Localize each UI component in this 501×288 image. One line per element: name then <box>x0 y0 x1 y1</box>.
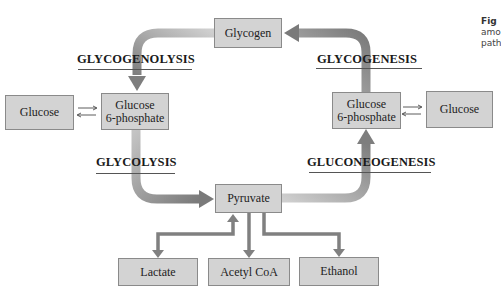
node-ethanol: Ethanol <box>299 257 379 286</box>
underline-glycogenolysis <box>78 69 192 70</box>
node-g6p-right-line2: 6-phosphate <box>337 111 396 124</box>
node-glucose-left-label: Glucose <box>20 106 59 119</box>
equilibrium-arrows-left <box>77 106 97 117</box>
node-lactate: Lactate <box>118 258 198 286</box>
node-glucose-right: Glucose <box>426 91 493 128</box>
node-g6p-right-line1: Glucose <box>347 98 386 111</box>
node-glucose-right-label: Glucose <box>440 103 479 116</box>
node-g6p-left: Glucose 6-phosphate <box>101 93 169 130</box>
equilibrium-arrows-right <box>402 105 422 116</box>
underline-glycolysis <box>96 173 175 174</box>
node-pyruvate-label: Pyruvate <box>227 192 270 205</box>
underline-glycogenesis <box>316 68 422 69</box>
label-glycogenesis: GLYCOGENESIS <box>317 52 417 67</box>
label-glycogenolysis: GLYCOGENOLYSIS <box>77 52 195 67</box>
caption-line2: amo <box>481 27 501 38</box>
figure-caption: Fig amo path <box>481 16 501 49</box>
node-ethanol-label: Ethanol <box>320 265 357 278</box>
caption-line3: path <box>481 38 501 49</box>
caption-line1: Fig <box>481 16 497 26</box>
pyruvate-branches <box>158 213 339 252</box>
node-lactate-label: Lactate <box>140 266 175 279</box>
node-glycogen-label: Glycogen <box>225 27 272 40</box>
node-g6p-left-line1: Glucose <box>115 99 154 112</box>
node-acetyl-coa: Acetyl CoA <box>208 258 290 286</box>
node-glucose-left: Glucose <box>5 95 74 130</box>
node-glycogen: Glycogen <box>214 18 282 48</box>
label-gluconeogenesis: GLUCONEOGENESIS <box>307 155 436 170</box>
node-acetyl-coa-label: Acetyl CoA <box>220 266 278 279</box>
underline-gluconeogenesis <box>309 172 431 173</box>
node-g6p-left-line2: 6-phosphate <box>106 112 165 125</box>
node-g6p-right: Glucose 6-phosphate <box>332 92 401 129</box>
node-pyruvate: Pyruvate <box>215 184 282 213</box>
label-glycolysis: GLYCOLYSIS <box>96 155 177 170</box>
